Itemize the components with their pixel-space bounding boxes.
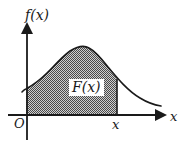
y-axis-label: f(x) xyxy=(25,8,49,22)
y-axis-arrowhead xyxy=(21,22,33,34)
x-axis-label: x xyxy=(170,110,177,123)
x-axis-arrowhead xyxy=(155,109,167,121)
x-tick-label: x xyxy=(112,118,119,131)
origin-label: O xyxy=(14,117,25,130)
shaded-area-label: F(x) xyxy=(69,79,104,96)
math-figure-canvas: f(x) x O x F(x) xyxy=(0,0,187,148)
